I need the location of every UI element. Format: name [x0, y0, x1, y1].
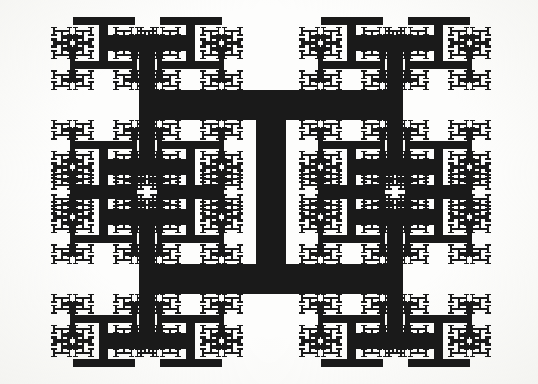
- h-tree-fractal-figure: [0, 0, 538, 384]
- figure-container: [0, 0, 538, 384]
